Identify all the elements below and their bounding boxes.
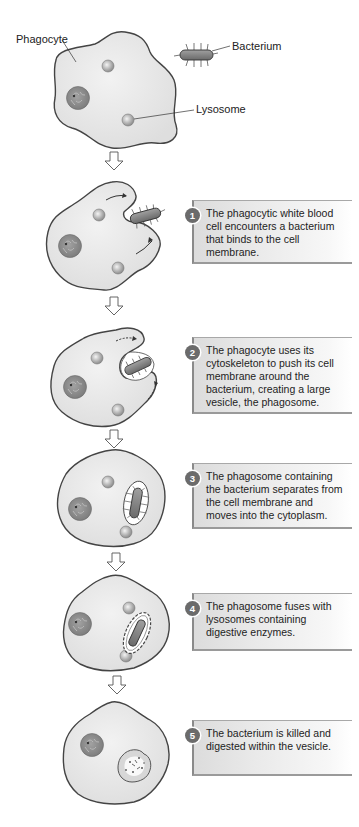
step-3-text: The phagosome containing the bacterium s…: [206, 470, 346, 522]
step-1-text: The phagocytic white blood cell encounte…: [206, 207, 346, 259]
step-3-box: 3 The phagosome containing the bacterium…: [192, 463, 352, 529]
phagocyte-cell-step-3: [58, 450, 165, 547]
phagocyte-cell-initial: [54, 32, 177, 149]
phagocyte-cell-step-4: [64, 575, 170, 670]
step-2-text: The phagocyte uses its cytoskeleton to p…: [206, 344, 346, 409]
bacterium-illustration: [174, 43, 218, 67]
step-3-badge: 3: [185, 471, 200, 486]
step-1-badge: 1: [185, 208, 200, 223]
step-4-text: The phagosome fuses with lysosomes conta…: [206, 600, 346, 639]
step-2-badge: 2: [185, 345, 200, 360]
digested-vesicle: [118, 750, 151, 782]
label-phagocyte: Phagocyte: [16, 33, 68, 45]
step-4-badge: 4: [185, 601, 200, 616]
step-2-box: 2 The phagocyte uses its cytoskeleton to…: [192, 337, 352, 414]
step-5-box: 5 The bacterium is killed and digested w…: [192, 720, 352, 776]
phagocyte-cell-step-5: [63, 702, 169, 804]
step-5-badge: 5: [185, 728, 200, 743]
phagocyte-cell-step-2: [51, 328, 158, 426]
step-4-box: 4 The phagosome fuses with lysosomes con…: [192, 593, 352, 651]
label-lysosome: Lysosome: [196, 103, 246, 115]
phagocyte-cell-step-1: [47, 182, 168, 291]
step-1-box: 1 The phagocytic white blood cell encoun…: [192, 200, 352, 264]
label-bacterium: Bacterium: [232, 40, 282, 52]
step-5-text: The bacterium is killed and digested wit…: [206, 727, 346, 753]
